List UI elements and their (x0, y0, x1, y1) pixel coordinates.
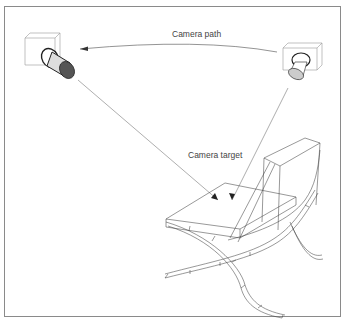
arrowhead-icon (80, 47, 88, 52)
camera-target-label: Camera target (188, 150, 242, 160)
left-camera-icon (25, 33, 78, 81)
camera-path-arc (80, 44, 277, 52)
sight-line-left (78, 80, 218, 200)
diagram-canvas (0, 0, 347, 324)
chair-wireframe (165, 138, 323, 318)
camera-path-label: Camera path (172, 29, 221, 39)
right-camera-icon (283, 43, 322, 82)
